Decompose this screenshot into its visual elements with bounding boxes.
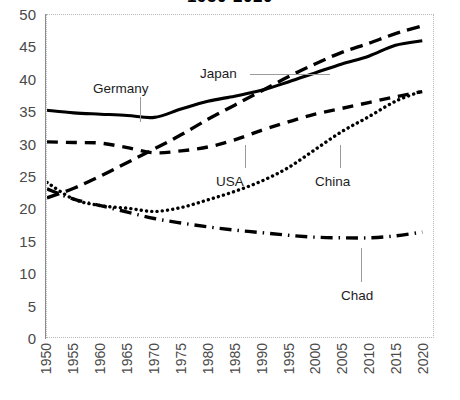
- series-label-japan: Japan: [200, 66, 237, 81]
- x-axis-tick-label: 1975: [173, 343, 189, 374]
- line-chart: 1950-2020 05101520253035404550 195019551…: [0, 0, 460, 400]
- series-label-usa: USA: [216, 174, 244, 189]
- y-axis-tick-label: 30: [19, 135, 36, 152]
- x-axis: 1950195519601965197019751980198519901995…: [46, 340, 434, 400]
- x-axis-tick-label: 1965: [119, 343, 135, 374]
- y-axis-tick-label: 50: [19, 6, 36, 23]
- y-axis-tick-label: 35: [19, 103, 36, 120]
- y-axis-tick-label: 25: [19, 168, 36, 185]
- leader-line-japan: [250, 74, 330, 75]
- series-label-germany: Germany: [93, 81, 149, 96]
- y-axis-tick-label: 10: [19, 265, 36, 282]
- leader-line-germany: [140, 97, 141, 122]
- x-axis-tick-label: 1980: [200, 343, 216, 374]
- x-axis-tick-label: 2010: [361, 343, 377, 374]
- x-axis-tick-label: 1950: [38, 343, 54, 374]
- y-axis-tick-label: 45: [19, 38, 36, 55]
- series-label-chad: Chad: [341, 288, 373, 303]
- y-axis-tick-label: 15: [19, 232, 36, 249]
- y-axis-tick-label: 20: [19, 200, 36, 217]
- leader-line-chad: [361, 248, 362, 282]
- x-axis-tick-label: 2000: [307, 343, 323, 374]
- series-label-china: China: [315, 174, 350, 189]
- x-axis-tick-label: 2015: [388, 343, 404, 374]
- x-axis-tick-label: 1955: [65, 343, 81, 374]
- x-axis-tick-label: 1990: [254, 343, 270, 374]
- x-axis-tick-label: 2005: [334, 343, 350, 374]
- series-line-usa: [47, 92, 422, 153]
- series-line-china: [47, 91, 422, 211]
- x-axis-tick-label: 1985: [227, 343, 243, 374]
- y-axis-tick-label: 0: [28, 330, 36, 347]
- x-axis-tick-label: 1960: [92, 343, 108, 374]
- chart-title: 1950-2020: [0, 0, 460, 7]
- series-line-japan: [47, 26, 422, 198]
- series-line-chad: [47, 189, 422, 238]
- leader-line-usa: [245, 145, 246, 168]
- x-axis-tick-label: 1995: [281, 343, 297, 374]
- leader-line-china: [340, 145, 341, 168]
- y-axis-tick-label: 5: [28, 297, 36, 314]
- y-axis: 05101520253035404550: [0, 0, 42, 352]
- x-axis-tick-label: 2020: [415, 343, 431, 374]
- x-axis-tick-label: 1970: [146, 343, 162, 374]
- y-axis-tick-label: 40: [19, 70, 36, 87]
